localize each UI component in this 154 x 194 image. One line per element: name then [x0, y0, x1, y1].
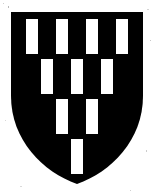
billet-r1-c4 [116, 19, 128, 54]
heraldic-shield [0, 0, 154, 194]
billet-r2-c1 [41, 59, 53, 94]
billet-r2-c3 [101, 59, 113, 94]
billet-r2-c2 [71, 59, 83, 94]
billet-r1-c3 [86, 19, 98, 54]
billet-r1-c1 [26, 19, 38, 54]
billet-r4-c1 [71, 139, 83, 174]
billet-r1-c2 [56, 19, 68, 54]
shield-image-canvas: Coat of arms shield with billets Sable, … [0, 0, 154, 194]
billet-r3-c1 [56, 99, 68, 134]
billet-r3-c2 [86, 99, 98, 134]
